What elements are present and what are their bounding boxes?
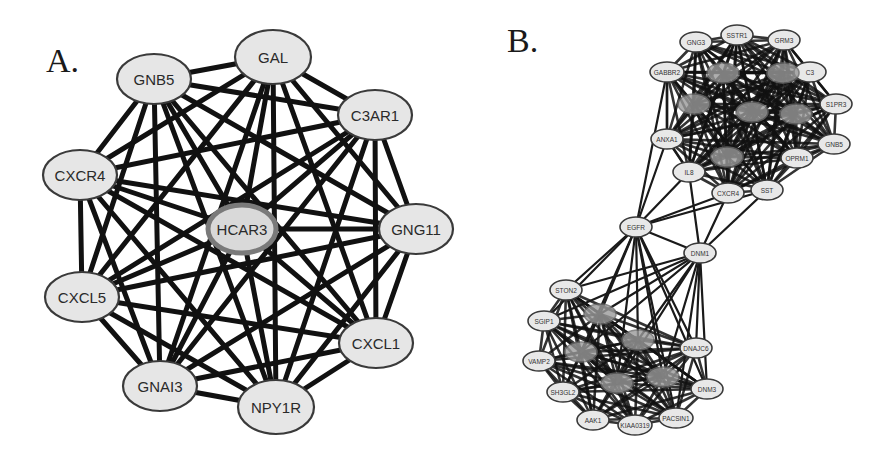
node-unlabeled <box>622 330 654 350</box>
node-label: SSTR1 <box>727 32 748 39</box>
node-unlabeled <box>647 367 679 387</box>
node-kiaa0319: KIAA0319 <box>618 415 652 435</box>
node-label: CXCR4 <box>55 167 106 184</box>
node-label: VAMP2 <box>528 358 550 365</box>
node-ellipse <box>736 102 768 122</box>
ppi-network-figure: A. GALGNB5C3AR1CXCR4HCAR3GNG11CXCL5CXCL1… <box>0 0 886 456</box>
node-unlabeled <box>707 63 739 83</box>
node-label: GAL <box>258 49 288 66</box>
node-label: OPRM1 <box>785 155 809 162</box>
node-label: STON2 <box>555 287 577 294</box>
node-egfr: EGFR <box>620 217 652 237</box>
node-sgip1: SGIP1 <box>528 311 560 331</box>
node-label: GNG11 <box>391 221 441 238</box>
node-unlabeled <box>736 102 768 122</box>
node-label: NPY1R <box>251 399 301 416</box>
node-label: ANXA1 <box>656 136 678 143</box>
node-unlabeled <box>678 94 710 114</box>
node-sst: SST <box>751 180 783 200</box>
node-label: PACSIN1 <box>662 415 690 422</box>
node-ston2: STON2 <box>550 280 582 300</box>
node-ellipse <box>707 63 739 83</box>
node-label: KIAA0319 <box>620 422 650 429</box>
node-label: GNB5 <box>825 141 843 148</box>
node-grm3: GRM3 <box>768 30 800 50</box>
node-label: EGFR <box>627 224 645 231</box>
node-label: GNAI3 <box>137 378 182 395</box>
node-gnai3: GNAI3 <box>123 361 197 411</box>
node-ellipse <box>647 367 679 387</box>
panel-b-edges <box>539 35 836 425</box>
node-label: CXCL1 <box>352 335 400 352</box>
node-anxa1: ANXA1 <box>651 129 683 149</box>
node-unlabeled <box>584 304 616 324</box>
node-label: DNM1 <box>691 250 710 257</box>
node-sh3gl2: SH3GL2 <box>547 382 579 402</box>
node-ellipse <box>601 373 633 393</box>
node-label: SH3GL2 <box>551 389 576 396</box>
node-unlabeled <box>780 104 812 124</box>
node-dnm3: DNM3 <box>691 379 723 399</box>
node-ellipse <box>678 94 710 114</box>
node-unlabeled <box>565 342 597 362</box>
node-ellipse <box>584 304 616 324</box>
panel-a-label: A. <box>46 42 79 79</box>
node-ellipse <box>711 147 743 167</box>
node-label: GNG3 <box>687 39 706 46</box>
node-label: HCAR3 <box>217 221 268 238</box>
node-oprm1: OPRM1 <box>781 148 813 168</box>
panel-b-label: B. <box>507 22 538 59</box>
node-gng3: GNG3 <box>680 32 712 52</box>
node-unlabeled <box>711 147 743 167</box>
node-ellipse <box>565 342 597 362</box>
node-unlabeled <box>601 373 633 393</box>
node-label: CXCR4 <box>717 190 739 197</box>
node-label: DNAJC6 <box>683 345 709 352</box>
node-ellipse <box>767 63 799 83</box>
node-label: SGIP1 <box>534 318 554 325</box>
node-pacsin1: PACSIN1 <box>659 408 693 428</box>
node-label: GNB5 <box>134 71 175 88</box>
node-ellipse <box>780 104 812 124</box>
node-label: AAK1 <box>585 417 602 424</box>
node-dnajc6: DNAJC6 <box>680 338 712 358</box>
node-sstr1: SSTR1 <box>721 25 753 45</box>
node-label: GABBR2 <box>654 69 681 76</box>
node-gabbr2: GABBR2 <box>650 62 684 82</box>
node-vamp2: VAMP2 <box>523 351 555 371</box>
node-label: CXCL5 <box>58 289 106 306</box>
node-unlabeled <box>767 63 799 83</box>
node-gal: GAL <box>235 30 311 84</box>
node-s1pr3: S1PR3 <box>820 94 852 114</box>
node-cxcl5: CXCL5 <box>45 272 119 322</box>
node-c3ar1: C3AR1 <box>338 90 412 140</box>
node-cxcl1: CXCL1 <box>339 318 413 368</box>
node-ellipse <box>622 330 654 350</box>
node-label: C3AR1 <box>351 107 399 124</box>
node-gnb5: GNB5 <box>818 134 850 154</box>
node-label: GRM3 <box>775 37 794 44</box>
node-label: IL8 <box>684 169 693 176</box>
node-il8: IL8 <box>673 162 705 182</box>
node-gnb5: GNB5 <box>117 54 191 104</box>
panel-b-network: B. GNG3SSTR1GRM3GABBR2C3S1PR3GNB5ANXA1IL… <box>507 22 852 435</box>
edge <box>636 227 638 340</box>
node-label: C3 <box>806 69 815 76</box>
node-label: DNM3 <box>698 386 717 393</box>
node-dnm1: DNM1 <box>684 243 716 263</box>
node-hcar3: HCAR3 <box>208 205 276 253</box>
node-label: S1PR3 <box>826 101 847 108</box>
panel-a-network: A. GALGNB5C3AR1CXCR4HCAR3GNG11CXCL5CXCL1… <box>43 30 453 434</box>
node-gng11: GNG11 <box>379 204 453 254</box>
node-cxcr4: CXCR4 <box>43 150 117 200</box>
node-label: SST <box>761 187 774 194</box>
node-aak1: AAK1 <box>577 410 609 430</box>
node-npy1r: NPY1R <box>238 380 314 434</box>
node-cxcr4: CXCR4 <box>712 183 744 203</box>
